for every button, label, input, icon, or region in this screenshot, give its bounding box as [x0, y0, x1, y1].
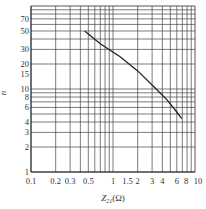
x-tick-label: 8	[184, 176, 188, 186]
y-tick-label: 2	[25, 142, 29, 152]
y-tick-label: 30	[21, 44, 30, 54]
y-tick-label: 3	[25, 127, 29, 137]
x-tick-label: 0.1	[26, 176, 37, 186]
grid	[31, 6, 195, 172]
x-tick-label: 0.5	[83, 176, 94, 186]
x-axis-ticks: 0.10.20.30.511.52346810	[26, 176, 203, 186]
y-tick-label: 20	[21, 59, 30, 69]
x-tick-label: 10	[194, 176, 203, 186]
y-axis-ticks: 123468101520305070	[21, 14, 30, 177]
x-tick-label: 4	[160, 176, 165, 186]
y-axis-label: n	[0, 90, 8, 95]
y-tick-label: 6	[25, 102, 29, 112]
x-axis-label: Z21(Ω)	[101, 193, 125, 204]
x-axis-label-unit: (Ω)	[112, 193, 125, 203]
x-tick-label: 1	[111, 176, 115, 186]
y-tick-label: 10	[21, 84, 30, 94]
x-tick-label: 2	[136, 176, 140, 186]
y-tick-label: 15	[21, 69, 30, 79]
y-tick-label: 70	[21, 14, 30, 24]
y-tick-label: 4	[25, 117, 30, 127]
y-tick-label: 50	[21, 26, 30, 36]
x-tick-label: 0.2	[50, 176, 61, 186]
x-tick-label: 6	[175, 176, 179, 186]
log-log-chart: 123468101520305070 0.10.20.30.511.523468…	[0, 0, 206, 209]
x-tick-label: 3	[150, 176, 154, 186]
x-tick-label: 1.5	[122, 176, 133, 186]
data-curve	[85, 31, 182, 119]
x-tick-label: 0.3	[65, 176, 76, 186]
